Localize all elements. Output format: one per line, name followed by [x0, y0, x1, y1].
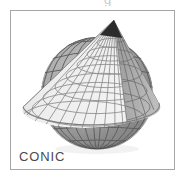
figure-frame: CONIC [10, 10, 175, 170]
figure-canvas [11, 11, 174, 169]
clipped-text-artifact: g [104, 0, 118, 6]
figure-caption: CONIC [19, 149, 65, 164]
conic-projection-illustration [11, 11, 174, 169]
ground-shadow [55, 144, 139, 154]
